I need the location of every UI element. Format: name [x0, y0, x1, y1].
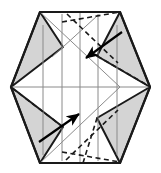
origami-diagram-canvas — [0, 0, 161, 173]
origami-diagram-figure — [0, 0, 161, 173]
